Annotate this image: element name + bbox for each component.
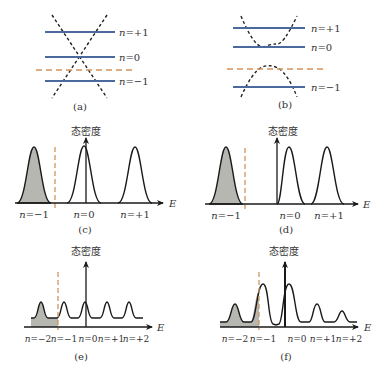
peak-label: n=0 xyxy=(78,334,97,344)
level-label-n-0: n=0 xyxy=(119,52,140,63)
panel-c: 态密度 E n=−1 n=0 n=+1 (c) xyxy=(15,125,177,235)
panel-caption-e: (e) xyxy=(74,351,88,362)
peak-label: n=−2 xyxy=(25,334,52,344)
conduction-band-parabola xyxy=(241,16,297,47)
peak-label: n=−1 xyxy=(250,334,277,344)
peak-label: n=0 xyxy=(279,210,300,221)
panel-caption-b: (b) xyxy=(278,99,292,110)
peak-label: n=−1 xyxy=(51,334,78,344)
peak-label: n=+1 xyxy=(120,209,150,220)
y-axis-label: 态密度 xyxy=(71,245,101,257)
y-axis-label: 态密度 xyxy=(269,245,299,257)
filled-peak-n-minus-1 xyxy=(209,147,243,204)
valence-band-parabola xyxy=(241,66,297,97)
panel-caption-f: (f) xyxy=(280,351,292,362)
peak-label: n=+2 xyxy=(123,334,150,344)
peak-label: n=−2 xyxy=(222,334,249,344)
panel-caption-a: (a) xyxy=(73,101,87,112)
x-axis-label: E xyxy=(156,322,165,333)
level-label-n-minus-1: n=−1 xyxy=(119,76,149,87)
peak-n-0 xyxy=(277,147,305,204)
panel-e: 态密度 E n=−2 n=−1 n=0 n=+1 n=+2 (e) xyxy=(24,245,165,362)
y-axis-label: 态密度 xyxy=(268,125,298,137)
x-axis-label: E xyxy=(362,199,371,210)
level-label-n-minus-1: n=−1 xyxy=(311,82,341,93)
landau-level-figure: n=+1 n=0 n=−1 (a) n=+1 n=0 n=−1 (b) 态密度 xyxy=(0,0,388,373)
panel-f: 态密度 E n=−2 n=−1 n=0 n=+1 n=+2 (f) xyxy=(220,245,372,362)
dos-curve xyxy=(31,302,143,318)
peak-label: n=0 xyxy=(287,334,306,344)
panel-b: n=+1 n=0 n=−1 (b) xyxy=(227,16,341,110)
peak-label: n=+2 xyxy=(336,334,363,344)
dos-curve xyxy=(220,284,357,325)
level-label-n-plus-1: n=+1 xyxy=(311,23,341,34)
peak-n-plus-1 xyxy=(118,147,152,203)
panel-a: n=+1 n=0 n=−1 (a) xyxy=(36,15,149,112)
level-label-n-0: n=0 xyxy=(311,42,332,53)
peak-label: n=−1 xyxy=(19,209,49,220)
level-label-n-plus-1: n=+1 xyxy=(119,27,149,38)
peak-n-plus-1 xyxy=(311,147,344,204)
filled-region xyxy=(31,302,58,327)
panel-caption-d: (d) xyxy=(279,224,293,235)
panel-d: 态密度 E n=−1 n=0 n=+1 (d) xyxy=(205,125,371,235)
peak-label: n=+1 xyxy=(310,334,337,344)
peak-label: n=0 xyxy=(73,209,94,220)
x-axis-label: E xyxy=(363,322,372,333)
peak-n-0 xyxy=(67,146,101,203)
peak-label: n=+1 xyxy=(314,210,344,221)
peak-label: n=+1 xyxy=(98,334,125,344)
filled-peak-n-minus-1 xyxy=(17,147,51,203)
y-axis-label: 态密度 xyxy=(71,125,101,137)
panel-caption-c: (c) xyxy=(78,224,92,235)
peak-label: n=−1 xyxy=(211,210,241,221)
x-axis-label: E xyxy=(168,198,177,209)
